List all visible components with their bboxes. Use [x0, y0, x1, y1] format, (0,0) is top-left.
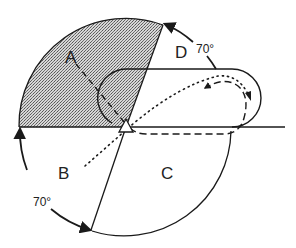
diagram-svg: A B C D 70° 70°: [0, 0, 296, 248]
region-label-a: A: [65, 48, 77, 67]
region-label-c: C: [161, 164, 173, 183]
sector-boundary-line-bc: [91, 127, 126, 230]
region-label-d: D: [175, 43, 187, 62]
diagram: A B C D 70° 70°: [0, 0, 296, 248]
angle-arc-upper-tail: [207, 56, 216, 69]
circle-arc-lower: [92, 131, 231, 236]
shaded-sector-a: [19, 18, 163, 127]
region-label-b: B: [58, 164, 69, 183]
angle-arc-upper: [165, 24, 193, 42]
angle-label-lower: 70°: [33, 195, 51, 209]
dotted-arrowhead-icon: [245, 91, 251, 101]
angle-arc-lower-top: [20, 129, 27, 170]
dashed-trajectory: [130, 81, 246, 134]
angle-label-upper: 70°: [196, 42, 214, 56]
angle-arc-lower-bottom: [51, 209, 90, 230]
